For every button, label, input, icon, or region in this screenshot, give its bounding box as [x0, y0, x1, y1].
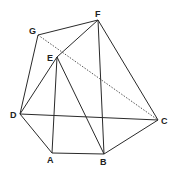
vertex-label-d: D: [10, 110, 17, 120]
vertex-label-a: A: [47, 155, 54, 165]
vertex-label-g: G: [29, 26, 36, 36]
edge-ab: [52, 153, 104, 154]
edge-bc: [104, 120, 158, 154]
edge-fc: [98, 20, 158, 120]
vertex-labels-group: ABCDEFG: [10, 9, 168, 167]
edge-da: [20, 114, 52, 153]
edge-fb: [98, 20, 104, 154]
edge-eb: [57, 57, 104, 154]
vertex-label-b: B: [100, 157, 107, 167]
edge-ea: [52, 57, 57, 153]
vertex-label-c: C: [161, 116, 168, 126]
edges-group: [20, 20, 158, 154]
edge-gd: [20, 35, 38, 114]
edge-dc: [20, 114, 158, 120]
vertex-label-f: F: [95, 9, 101, 19]
vertex-label-e: E: [47, 53, 53, 63]
geometry-diagram: ABCDEFG: [0, 0, 176, 179]
edge-ed: [20, 57, 57, 114]
